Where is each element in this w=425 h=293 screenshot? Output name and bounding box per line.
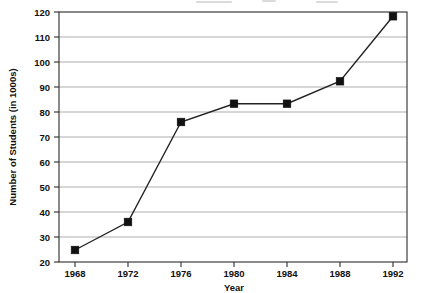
- y-tick-label: 60: [39, 157, 50, 168]
- series-line-number-of-students: [75, 16, 393, 250]
- gridlines: [59, 37, 407, 237]
- x-tick-label: 1972: [117, 268, 138, 279]
- y-tick-label: 40: [39, 207, 50, 218]
- y-axis-ticks: [54, 12, 59, 262]
- x-tick-label: 1992: [382, 268, 403, 279]
- y-tick-label: 110: [35, 32, 50, 43]
- data-series: [71, 12, 397, 253]
- y-axis-title: Number of Students (in 1000s): [7, 68, 18, 205]
- x-tick-label: 1968: [64, 268, 85, 279]
- x-axis-ticks: [75, 262, 393, 267]
- y-tick-label: 100: [34, 57, 50, 68]
- data-point-1968: [71, 246, 79, 254]
- y-tick-label: 50: [39, 182, 50, 193]
- y-tick-label: 70: [39, 132, 50, 143]
- x-tick-label: 1976: [170, 268, 191, 279]
- y-tick-label: 30: [39, 232, 50, 243]
- data-point-1980: [230, 100, 238, 108]
- data-point-1972: [124, 218, 132, 226]
- data-point-1992: [389, 12, 397, 20]
- x-tick-label: 1984: [276, 268, 298, 279]
- line-chart: 120 110 100 90 80 70 60 50 40 30 20 1968…: [0, 0, 425, 293]
- y-tick-label: 80: [39, 107, 50, 118]
- y-axis-tick-labels: 120 110 100 90 80 70 60 50 40 30 20: [34, 7, 50, 268]
- y-tick-label: 90: [39, 82, 50, 93]
- y-tick-label: 20: [39, 257, 50, 268]
- y-tick-label: 120: [34, 7, 50, 18]
- x-axis-tick-labels: 1968 1972 1976 1980 1984 1988 1992: [64, 268, 403, 279]
- scan-artifact: [196, 0, 338, 3]
- data-point-1988: [336, 77, 344, 85]
- x-tick-label: 1988: [329, 268, 350, 279]
- x-axis-title: Year: [224, 282, 244, 293]
- x-tick-label: 1980: [223, 268, 244, 279]
- data-point-1976: [177, 118, 185, 126]
- data-point-1984: [283, 100, 291, 108]
- chart-canvas: 120 110 100 90 80 70 60 50 40 30 20 1968…: [0, 0, 425, 293]
